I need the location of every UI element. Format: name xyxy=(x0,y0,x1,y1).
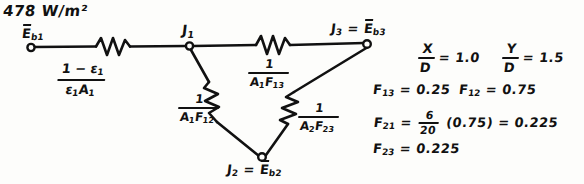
node-dot-j3 xyxy=(363,40,371,48)
node-label-j1: J1 xyxy=(181,22,196,40)
node-label-eb1: Eb1 xyxy=(21,26,45,42)
wire-r13-to-j3 xyxy=(290,43,364,45)
resistor-symbol-space-13 xyxy=(256,36,290,54)
resistor-symbol-space-23 xyxy=(280,92,298,124)
node-dot-j1 xyxy=(186,42,193,49)
fraction-six-twentieths: 6 20 xyxy=(417,110,441,136)
wire-eb1-to-r1 xyxy=(34,47,96,48)
wire-j1-to-r13 xyxy=(193,45,256,46)
ratio-y-over-d-value: = 1.5 xyxy=(522,50,565,65)
resistor-label-space-23: 1 A2F23 xyxy=(296,102,340,133)
node-dot-eb1 xyxy=(27,44,34,51)
view-factor-f21: F21 = 6 20 (0.75) = 0.225 xyxy=(372,110,560,136)
view-factor-f12: F12 = 0.75 xyxy=(458,82,537,98)
resistor-symbol-surface-1 xyxy=(96,38,130,55)
wire-r12-to-j2 xyxy=(217,122,259,156)
wire-r1-to-j1 xyxy=(130,46,186,47)
resistor-label-space-13: 1 A1F13 xyxy=(246,58,290,89)
sketch-canvas: 478 W/m² Eb1 J1 J3 = Eb3 J2 = Eb2 1 − ε1… xyxy=(0,0,584,184)
wire-r23-to-j3 xyxy=(294,47,368,92)
view-factor-f23: F23 = 0.225 xyxy=(372,141,461,157)
flux-annotation: 478 W/m² xyxy=(2,2,89,20)
node-label-j2: J2 = Eb2 xyxy=(226,162,283,178)
resistor-label-surface-1: 1 − ε1 ε1A1 xyxy=(55,62,108,99)
ratio-x-over-d-value: = 1.0 xyxy=(438,50,481,65)
resistor-label-space-12: 1 A1F12 xyxy=(176,93,220,124)
wire-j2-to-r23 xyxy=(266,124,288,155)
wire-j1-to-r12 xyxy=(191,50,209,82)
node-label-j3: J3 = Eb3 xyxy=(330,21,387,37)
view-factor-f13: F13 = 0.25 xyxy=(372,82,451,98)
